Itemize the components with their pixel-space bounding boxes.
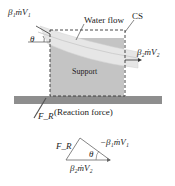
reaction-force-text: (Reaction force) [54, 108, 113, 117]
triangle-angle-label: θ [89, 150, 93, 159]
angle-label: θ [30, 35, 34, 44]
angle-arc [43, 36, 44, 42]
triangle-outflow-label: β₂ṁV₂ [70, 164, 93, 173]
triangle-fr-label: F_R [56, 142, 72, 151]
inflow-momentum-label: β₁ṁV₁ [8, 8, 31, 17]
support-label: Support [72, 68, 97, 76]
triangle-neg-inflow-label: −β₁ṁV₁ [100, 138, 129, 147]
water-flow-leader [76, 24, 84, 40]
diagram-canvas [0, 0, 175, 186]
cs-leader [125, 20, 134, 32]
ground [14, 96, 162, 104]
control-surface-label: CS [132, 12, 143, 21]
water-flow-label: Water flow [84, 16, 124, 25]
outflow-arrowhead [138, 58, 142, 62]
reaction-force-symbol: F_R [38, 112, 54, 121]
outflow-momentum-label: β₂ṁV₂ [137, 48, 160, 57]
triangle-angle-arc [96, 151, 99, 160]
triangle-arrowhead [107, 158, 111, 162]
